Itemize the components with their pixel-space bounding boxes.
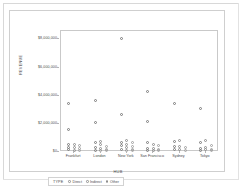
scatter-point (199, 107, 202, 110)
legend-label: Other (110, 180, 119, 184)
scatter-point (152, 143, 155, 146)
scatter-point (199, 141, 202, 144)
legend: TYPE DirectIndirectOther (48, 177, 124, 183)
scatter-point (67, 128, 70, 131)
scatter-point (94, 99, 97, 102)
y-axis-tick-mark (57, 67, 59, 68)
scatter-point (204, 139, 207, 142)
legend-item-direct[interactable]: Direct (68, 180, 81, 184)
scatter-point (131, 141, 134, 144)
x-axis-tick-label: Tokyo (187, 154, 223, 159)
legend-item-other[interactable]: Other (106, 180, 119, 184)
x-axis-tick-mark (126, 151, 127, 153)
page-border-right (238, 3, 239, 180)
page-canvas: REVENUE $8,000,000$6,000,000$4,000,000$2… (0, 0, 242, 183)
y-axis-tick-mark (57, 95, 59, 96)
x-axis-tick-labels: FrankfurtLondonNew YorkSan FranciscoSydn… (60, 154, 218, 168)
scatter-point (210, 144, 213, 147)
y-axis-tick-mark (57, 151, 59, 152)
legend-marker-icon (68, 180, 71, 183)
scatter-point (157, 144, 160, 147)
x-axis-tick-mark (152, 151, 153, 153)
x-axis-tick-mark (205, 151, 206, 153)
scatter-point (146, 141, 149, 144)
page-border-left (3, 3, 4, 180)
scatter-point (173, 102, 176, 105)
x-axis-tick-mark (179, 151, 180, 153)
scatter-point (120, 113, 123, 116)
chart-panel: REVENUE $8,000,000$6,000,000$4,000,000$2… (9, 10, 225, 172)
scatter-point (120, 141, 123, 144)
scatter-point (146, 90, 149, 93)
scatter-point (178, 145, 181, 148)
scatter-point (94, 141, 97, 144)
y-axis-tick-marks (10, 30, 60, 151)
y-axis-tick-mark (57, 38, 59, 39)
y-axis-tick-mark (57, 123, 59, 124)
x-axis-title: HUB (10, 169, 226, 174)
scatter-point (178, 139, 181, 142)
scatter-point (173, 140, 176, 143)
legend-marker-icon (86, 180, 89, 183)
legend-title: TYPE (53, 180, 63, 184)
scatter-point (99, 140, 102, 143)
scatter-point (120, 37, 123, 40)
plot-frame (60, 30, 218, 151)
legend-marker-icon (106, 180, 109, 183)
legend-label: Direct (73, 180, 82, 184)
scatter-point (94, 121, 97, 124)
x-axis-tick-mark (100, 151, 101, 153)
scatter-plot-area (61, 31, 217, 150)
scatter-point (120, 144, 123, 147)
legend-label: Indirect (90, 180, 102, 184)
x-axis-tick-mark (73, 151, 74, 153)
legend-item-indirect[interactable]: Indirect (86, 180, 102, 184)
scatter-point (67, 102, 70, 105)
scatter-point (125, 139, 128, 142)
page-border-top (3, 3, 239, 4)
scatter-point (146, 120, 149, 123)
